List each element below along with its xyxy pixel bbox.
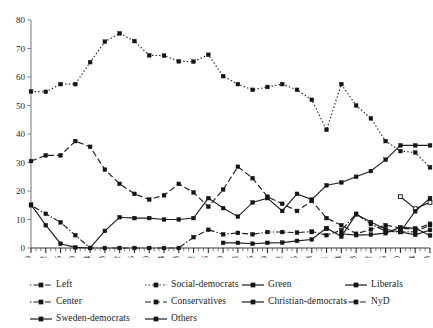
- series-marker: [384, 231, 388, 235]
- series-marker: [162, 54, 166, 58]
- series-marker: [133, 246, 137, 250]
- series-marker: [310, 238, 314, 242]
- series-marker: [88, 246, 92, 250]
- series-marker: [133, 39, 137, 43]
- x-axis-tick-label: 1950: [141, 256, 151, 258]
- y-axis-tick-label: 70: [16, 44, 26, 54]
- legend-item-christian-democrats[interactable]: Christian-democrats: [240, 297, 347, 307]
- series-marker: [369, 169, 373, 173]
- series-marker: [206, 205, 210, 209]
- legend-marker: [39, 283, 43, 287]
- series-marker: [354, 212, 358, 216]
- series-marker: [236, 215, 240, 219]
- series-marker: [133, 192, 137, 196]
- x-axis-tick-label: 1958: [171, 256, 181, 258]
- legend-item-left[interactable]: Left: [28, 280, 72, 290]
- series-marker: [428, 222, 432, 226]
- legend-item-sweden-democrats[interactable]: Sweden-democrats: [28, 314, 130, 324]
- series-marker: [88, 145, 92, 149]
- series-marker: [29, 90, 33, 94]
- legend-row: Sweden-democratsOthers: [0, 310, 433, 327]
- series-marker: [325, 227, 329, 231]
- series-marker: [310, 198, 314, 202]
- series-marker: [266, 230, 270, 234]
- series-marker: [280, 202, 284, 206]
- series-marker: [413, 209, 417, 213]
- x-axis-tick-labels: 1919192219261930193419381942194619501954…: [23, 255, 432, 258]
- legend-item-label: Green: [268, 280, 292, 290]
- series-marker: [428, 228, 432, 232]
- x-axis-tick-label: 2010: [392, 256, 402, 258]
- x-axis-tick-label: 1919: [23, 256, 33, 258]
- legend-marker: [39, 300, 43, 304]
- series-marker: [177, 246, 181, 250]
- x-axis-tick-label: 1922: [38, 256, 48, 258]
- series-marker: [103, 168, 107, 172]
- series-marker: [295, 239, 299, 243]
- series-marker: [295, 209, 299, 213]
- y-axis-tick-label: 40: [16, 129, 26, 139]
- series-marker: [73, 82, 77, 86]
- series-marker: [73, 246, 77, 250]
- legend-marker: [154, 317, 158, 321]
- series-marker: [413, 151, 417, 155]
- x-axis-tick-label: 1976: [245, 255, 255, 258]
- series-marker: [413, 144, 417, 148]
- legend-item-label: Center: [56, 297, 82, 307]
- x-axis-tick-label: 1942: [112, 256, 122, 258]
- x-axis-tick-label: 1962: [186, 256, 196, 258]
- series-marker: [280, 82, 284, 86]
- legend-item-nyd[interactable]: NyD: [343, 297, 390, 307]
- series-marker: [206, 53, 210, 57]
- legend-item-label: Conservatives: [171, 297, 226, 307]
- series-marker: [325, 183, 329, 187]
- series-marker: [162, 218, 166, 222]
- series-marker: [192, 216, 196, 220]
- legend-item-social-democrats[interactable]: Social-democrats: [143, 280, 239, 290]
- y-axis-tick-label: 10: [16, 215, 26, 225]
- series-marker: [354, 232, 358, 236]
- series-marker: [280, 230, 284, 234]
- series-marker: [118, 215, 122, 219]
- legend-item-center[interactable]: Center: [28, 297, 82, 307]
- legend-item-conservatives[interactable]: Conservatives: [143, 297, 226, 307]
- series-marker: [88, 60, 92, 64]
- series-marker: [103, 229, 107, 233]
- series-marker: [339, 223, 343, 227]
- series-marker: [59, 153, 63, 157]
- series-marker: [339, 181, 343, 185]
- series-marker: [251, 176, 255, 180]
- series-line: [31, 205, 430, 248]
- series-marker: [354, 104, 358, 108]
- chart-root: 0102030405060708019191922192619301934193…: [0, 0, 433, 328]
- series-marker: [206, 228, 210, 232]
- series-marker: [29, 159, 33, 163]
- legend-item-green[interactable]: Green: [240, 280, 292, 290]
- series-marker: [310, 230, 314, 234]
- series-marker: [59, 242, 63, 246]
- legend-item-liberals[interactable]: Liberals: [343, 280, 403, 290]
- series-marker: [384, 139, 388, 143]
- series-liberals: [399, 195, 432, 211]
- series-marker: [325, 233, 329, 237]
- series-marker: [177, 59, 181, 63]
- y-axis-tick-label: 30: [16, 158, 26, 168]
- series-marker: [384, 158, 388, 162]
- legend-marker: [354, 283, 358, 287]
- series-marker: [310, 98, 314, 102]
- series-marker: [147, 246, 151, 250]
- x-axis-tick-label: 1994: [333, 255, 343, 258]
- series-marker: [280, 241, 284, 245]
- series-marker: [399, 195, 403, 199]
- legend-item-label: Left: [56, 280, 72, 290]
- series-marker: [251, 201, 255, 205]
- legend-line-swatch: [28, 280, 54, 290]
- series-marker: [399, 149, 403, 153]
- series-marker: [280, 209, 284, 213]
- series-marker: [192, 60, 196, 64]
- legend-item-others[interactable]: Others: [143, 314, 197, 324]
- series-marker: [103, 246, 107, 250]
- legend-line-swatch: [143, 297, 169, 307]
- x-axis-tick-label: 1970: [215, 256, 225, 258]
- chart-legend: LeftSocial-democratsGreenLiberalsCenterC…: [0, 276, 433, 328]
